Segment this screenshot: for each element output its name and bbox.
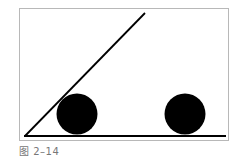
figure-diagram xyxy=(0,0,247,162)
figure-caption: 图 2–14 xyxy=(19,143,59,158)
ball-left xyxy=(57,94,98,135)
ball-right xyxy=(165,94,206,135)
